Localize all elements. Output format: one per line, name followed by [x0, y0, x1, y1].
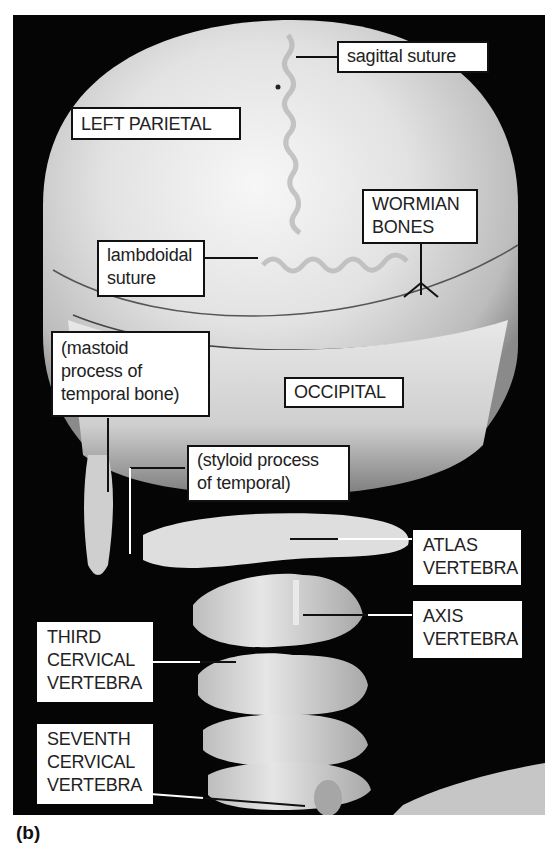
label-text-line: CERVICAL [47, 649, 145, 672]
label-text-line: SEVENTH [47, 728, 145, 751]
label-text: OCCIPITAL [294, 382, 386, 402]
label-text: sagittal suture [347, 46, 456, 66]
label-axis-vertebra: AXIS VERTEBRA [413, 601, 522, 658]
label-text-line: (styloid process [197, 449, 342, 472]
label-text-line: VERTEBRA [47, 774, 145, 797]
figure-caption: (b) [16, 822, 40, 844]
label-text-line: temporal bone) [61, 383, 202, 406]
label-lambdoidal-suture: lambdoidal suture [97, 240, 205, 297]
label-occipital: OCCIPITAL [284, 377, 404, 408]
label-text-line: THIRD [47, 626, 145, 649]
label-text-line: VERTEBRA [47, 672, 145, 695]
label-text-line: WORMIAN [372, 193, 470, 216]
label-atlas-vertebra: ATLAS VERTEBRA [413, 530, 521, 585]
label-text-line: of temporal) [197, 472, 342, 495]
label-styloid-process: (styloid process of temporal) [187, 445, 350, 502]
label-text-line: ATLAS [423, 534, 513, 557]
label-text-line: VERTEBRA [423, 557, 513, 580]
label-seventh-cervical-vertebra: SEVENTH CERVICAL VERTEBRA [37, 724, 153, 804]
label-text-line: BONES [372, 216, 470, 239]
label-mastoid-process: (mastoid process of temporal bone) [51, 331, 210, 417]
label-text-line: lambdoidal [107, 244, 197, 267]
label-sagittal-suture: sagittal suture [337, 41, 489, 73]
label-text-line: AXIS [423, 605, 514, 628]
label-text-line: VERTEBRA [423, 628, 514, 651]
label-text-line: CERVICAL [47, 751, 145, 774]
label-wormian-bones: WORMIAN BONES [362, 189, 478, 244]
label-left-parietal: LEFT PARIETAL [71, 107, 241, 140]
label-text-line: (mastoid [61, 337, 202, 360]
label-text-line: process of [61, 360, 202, 383]
label-text-line: suture [107, 267, 197, 290]
label-third-cervical-vertebra: THIRD CERVICAL VERTEBRA [37, 622, 153, 702]
label-text: LEFT PARIETAL [81, 114, 211, 134]
